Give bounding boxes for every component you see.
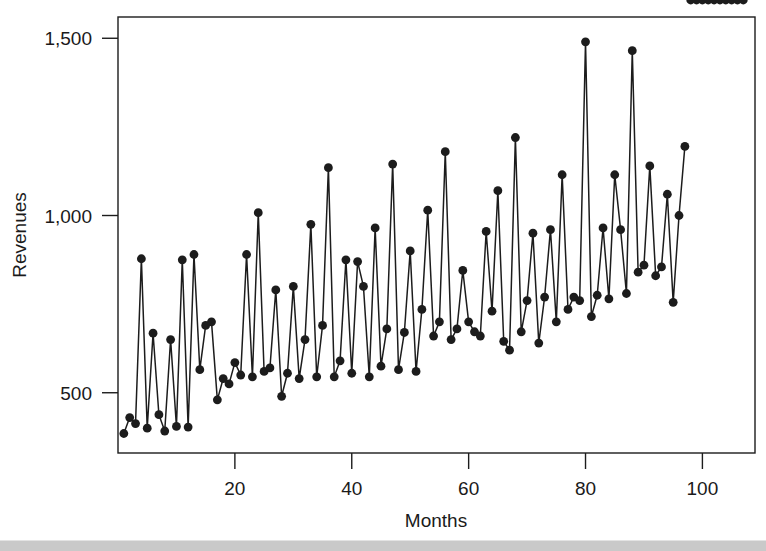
data-point — [657, 263, 666, 272]
data-point — [254, 208, 263, 217]
y-axis-title: Revenues — [9, 192, 30, 278]
data-point — [155, 410, 164, 419]
data-point — [400, 328, 409, 337]
data-point — [558, 170, 567, 179]
y-tick-label: 1,500 — [44, 28, 92, 49]
data-point — [493, 186, 502, 195]
data-point — [160, 427, 169, 436]
data-point — [534, 339, 543, 348]
data-point — [669, 298, 678, 307]
data-point — [359, 282, 368, 291]
data-point — [277, 392, 286, 401]
data-point — [505, 346, 514, 355]
bottom-gray-strip — [0, 540, 766, 551]
data-point — [371, 224, 380, 233]
data-point — [581, 37, 590, 46]
x-tick-label: 20 — [224, 478, 245, 499]
screenshot-root: 5001,0001,500 20406080100 Months Revenue… — [0, 0, 766, 551]
data-point — [236, 371, 245, 380]
revenues-line — [124, 42, 685, 434]
data-point — [447, 335, 456, 344]
data-point — [119, 429, 128, 438]
data-point — [605, 294, 614, 303]
data-point — [511, 133, 520, 142]
data-point — [587, 312, 596, 321]
data-point — [271, 286, 280, 295]
data-point — [283, 369, 292, 378]
data-point — [441, 147, 450, 156]
x-tick-label: 80 — [575, 478, 596, 499]
data-point — [131, 419, 140, 428]
data-point — [406, 247, 415, 256]
y-tick-label: 1,000 — [44, 206, 92, 227]
data-point — [599, 224, 608, 233]
data-point — [423, 206, 432, 215]
x-tick-label: 100 — [687, 478, 719, 499]
data-point — [622, 289, 631, 298]
y-tick-label: 500 — [60, 383, 92, 404]
data-point — [242, 250, 251, 259]
data-point — [523, 296, 532, 305]
data-point — [137, 254, 146, 263]
x-tick-label: 40 — [341, 478, 362, 499]
data-point — [482, 227, 491, 236]
data-point — [330, 372, 339, 381]
data-point — [336, 356, 345, 365]
data-point — [552, 317, 561, 326]
plot-frame — [118, 17, 755, 453]
data-point — [342, 255, 351, 264]
data-point — [645, 161, 654, 170]
data-point — [529, 229, 538, 238]
data-point — [353, 257, 362, 266]
data-point — [248, 372, 257, 381]
data-point — [675, 211, 684, 220]
data-point — [546, 225, 555, 234]
data-point — [575, 296, 584, 305]
data-point — [640, 261, 649, 270]
data-point — [394, 365, 403, 374]
data-point — [540, 293, 549, 302]
data-point — [295, 374, 304, 383]
data-point — [312, 372, 321, 381]
data-point — [388, 160, 397, 169]
y-axis: 5001,0001,500 — [44, 28, 118, 403]
data-point — [680, 142, 689, 151]
data-point — [628, 46, 637, 55]
data-point — [377, 362, 386, 371]
data-point — [476, 332, 485, 341]
data-point — [651, 271, 660, 280]
data-point — [213, 395, 222, 404]
x-tick-label: 60 — [458, 478, 479, 499]
data-point — [149, 329, 158, 338]
data-point — [488, 307, 497, 316]
data-point — [195, 365, 204, 374]
data-point — [318, 321, 327, 330]
data-point — [230, 358, 239, 367]
data-point — [610, 170, 619, 179]
data-point — [458, 266, 467, 275]
data-point — [517, 327, 526, 336]
data-point — [499, 337, 508, 346]
data-point — [429, 332, 438, 341]
data-point — [634, 268, 643, 277]
data-point — [453, 325, 462, 334]
data-point — [166, 335, 175, 344]
revenues-time-series-chart: 5001,0001,500 20406080100 Months Revenue… — [0, 0, 766, 540]
data-point — [172, 422, 181, 431]
data-point — [301, 335, 310, 344]
data-point — [178, 255, 187, 264]
data-point — [564, 305, 573, 314]
data-point — [739, 0, 748, 4]
data-point — [306, 220, 315, 229]
data-point — [207, 317, 216, 326]
data-point — [266, 364, 275, 373]
data-point — [464, 317, 473, 326]
data-point — [412, 367, 421, 376]
data-point — [190, 250, 199, 259]
chart-canvas: 5001,0001,500 20406080100 Months Revenue… — [0, 0, 766, 540]
revenues-data-points — [119, 0, 747, 438]
data-point — [616, 225, 625, 234]
data-point — [663, 190, 672, 199]
data-point — [382, 325, 391, 334]
x-axis-title: Months — [405, 510, 467, 531]
